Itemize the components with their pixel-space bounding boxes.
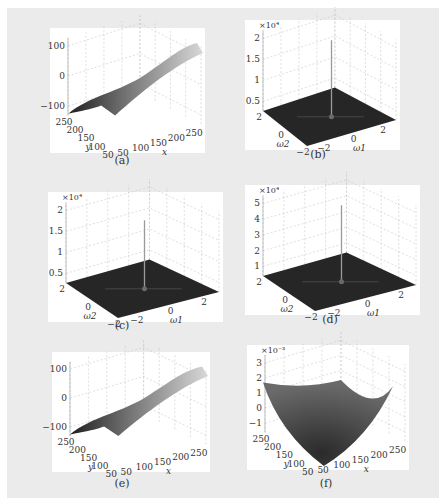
z-tick-label: −100	[42, 422, 67, 432]
z-tick-label: 1	[57, 247, 63, 257]
subplot-f: 3210−1×10⁻³2502001501005050100150200250y…	[247, 345, 409, 470]
z-tick-label: 2	[256, 373, 262, 383]
z-tick-label: 0	[256, 403, 262, 413]
x-tick-label: 100	[132, 143, 149, 153]
z-tick-label: 100	[50, 364, 67, 374]
x-axis-label: ω1	[170, 315, 183, 325]
z-tick-label: 5	[254, 198, 260, 208]
z-tick-label: 4	[254, 214, 260, 224]
x-axis-label: x	[162, 147, 167, 157]
z-tick-label: −1	[249, 418, 262, 428]
y-axis-label: ω2	[280, 304, 293, 314]
z-tick-label: 0.5	[49, 268, 64, 278]
x-tick-label: 200	[168, 133, 185, 143]
plot-svg-b: 21.510.5×10⁴20−2−202ω2ω1	[245, 20, 400, 150]
z-tick-label: 3	[256, 358, 262, 368]
y-tick-label: 2	[59, 284, 65, 294]
x-axis-label: ω1	[367, 308, 380, 318]
x-tick-label: 200	[172, 452, 189, 462]
y-axis-label: y	[84, 142, 91, 152]
z-tick-label: 1	[254, 261, 260, 271]
z-tick-label: 100	[48, 41, 65, 51]
x-axis-label: ω1	[353, 143, 366, 153]
x-tick-label: 2	[398, 290, 404, 300]
x-tick-label: 50	[121, 467, 133, 477]
z-tick-label: 3	[254, 230, 260, 240]
y-tick-label: 2	[256, 112, 262, 122]
plot-svg-a: 1000−1002502001501005050100150200250yx	[50, 28, 205, 153]
y-tick-label: 2	[256, 277, 262, 287]
ridge-surface	[70, 366, 208, 436]
z-tick-label: 1.5	[246, 54, 261, 64]
x-tick-label: 50	[317, 465, 329, 475]
x-tick-label: 250	[389, 445, 406, 455]
z-tick-label: 2	[57, 205, 63, 215]
y-tick-label: 50	[302, 467, 314, 477]
plot-svg-e: 1000−1002502001501005050100150200250yx	[52, 352, 210, 472]
subplot-caption: (b)	[298, 148, 338, 161]
subplot-a: 1000−1002502001501005050100150200250yx	[50, 28, 205, 153]
z-exponent-label: ×10⁻³	[261, 346, 285, 355]
x-tick-label: 200	[370, 450, 387, 460]
subplot-b: 21.510.5×10⁴20−2−202ω2ω1	[245, 20, 400, 150]
y-axis-label: ω2	[83, 311, 96, 321]
x-tick-label: 250	[190, 448, 207, 458]
subplot-c: 21.510.5×10⁴20−2−202ω2ω1	[48, 192, 223, 322]
ridge-surface	[68, 43, 203, 116]
z-tick-label: 2	[254, 246, 260, 256]
x-axis-label: x	[166, 466, 171, 476]
x-tick-label: 100	[333, 460, 350, 470]
peak-base	[329, 114, 334, 119]
plot-svg-c: 21.510.5×10⁴20−2−202ω2ω1	[48, 192, 223, 322]
x-tick-label: 2	[380, 125, 386, 135]
z-tick-label: 1.5	[49, 226, 64, 236]
peak-base	[142, 286, 147, 291]
y-axis-label: ω2	[276, 139, 289, 149]
z-tick-label: 0	[61, 393, 67, 403]
plot-svg-d: 54321×10⁴20−2−202ω2ω1	[245, 185, 420, 315]
y-axis-label: y	[283, 459, 290, 469]
z-tick-label: −100	[40, 101, 65, 111]
x-tick-label: 100	[136, 462, 153, 472]
y-axis-label: y	[87, 462, 94, 472]
z-exponent-label: ×10⁴	[259, 21, 279, 30]
subplot-caption: (e)	[102, 477, 142, 490]
z-tick-label: 0.5	[246, 96, 261, 106]
subplot-caption: (d)	[310, 313, 350, 326]
z-tick-label: 1	[256, 388, 262, 398]
plot-svg-f: 3210−1×10⁻³2502001501005050100150200250y…	[247, 345, 409, 470]
subplot-caption: (c)	[102, 319, 142, 332]
x-tick-label: 2	[201, 297, 207, 307]
subplot-caption: (f)	[306, 477, 346, 490]
peak-base	[339, 279, 344, 284]
x-tick-label: 250	[186, 128, 203, 138]
subplot-caption: (a)	[102, 154, 142, 167]
subplot-e: 1000−1002502001501005050100150200250yx	[52, 352, 210, 472]
subplot-d: 54321×10⁴20−2−202ω2ω1	[245, 185, 420, 315]
z-exponent-label: ×10⁴	[62, 193, 82, 202]
z-tick-label: 0	[59, 71, 65, 81]
z-exponent-label: ×10⁴	[259, 186, 279, 195]
z-tick-label: 2	[254, 33, 260, 43]
x-axis-label: x	[364, 464, 369, 474]
z-tick-label: 1	[254, 75, 260, 85]
